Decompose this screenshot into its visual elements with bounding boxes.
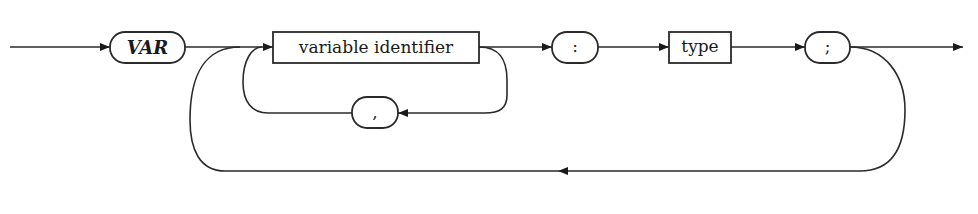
comma-label: , bbox=[372, 102, 377, 122]
semicolon-label: ; bbox=[825, 36, 831, 56]
var-keyword-label: VAR bbox=[127, 37, 169, 58]
type-label: type bbox=[681, 36, 718, 56]
colon-label: : bbox=[572, 36, 578, 56]
variable-identifier-label: variable identifier bbox=[298, 37, 454, 57]
variable-identifier-node: variable identifier bbox=[273, 32, 479, 63]
colon-node: : bbox=[552, 32, 598, 63]
syntax-diagram: VAR variable identifier , : type bbox=[0, 0, 978, 214]
var-keyword-node: VAR bbox=[110, 32, 185, 63]
type-node: type bbox=[669, 32, 731, 63]
semicolon-node: ; bbox=[805, 32, 850, 63]
comma-node: , bbox=[352, 97, 398, 128]
declaration-repeat-loop bbox=[190, 47, 905, 171]
